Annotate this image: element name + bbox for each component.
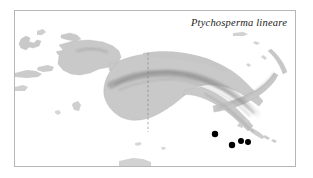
occurrence-point xyxy=(229,142,235,148)
occurrence-point xyxy=(212,131,218,137)
occurrence-point xyxy=(238,138,244,144)
species-name-label: Ptychosperma lineare xyxy=(191,17,287,28)
distribution-map-figure: Ptychosperma lineare xyxy=(0,0,313,178)
map-canvas xyxy=(15,11,295,166)
map-frame: Ptychosperma lineare xyxy=(14,10,296,167)
occurrence-point xyxy=(245,139,251,145)
